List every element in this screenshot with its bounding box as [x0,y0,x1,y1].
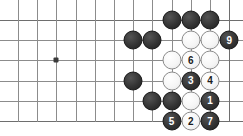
stone-black [143,91,162,110]
grid-line-vertical-6 [133,0,134,122]
grid-line-vertical-3 [76,0,77,122]
move-stone-6: 6 [181,51,200,70]
move-stone-1: 1 [201,91,220,110]
stone-white [162,71,181,90]
stone-black [162,11,181,30]
stone-move-number: 7 [207,116,213,126]
grid-line-vertical-0 [18,0,19,122]
move-stone-9: 9 [220,31,239,50]
stone-black [162,91,181,110]
stone-black [143,31,162,50]
hoshi-point [54,58,59,63]
move-stone-2: 2 [181,112,200,131]
stone-move-number: 3 [188,76,194,86]
move-stone-7: 7 [201,112,220,131]
stone-white [181,31,200,50]
grid-line-vertical-4 [95,0,96,122]
grid-line-vertical-1 [37,0,38,122]
stone-white [162,51,181,70]
grid-line-vertical-11 [229,0,230,122]
stone-black [124,71,143,90]
stone-black [124,31,143,50]
stone-black [181,11,200,30]
stone-move-number: 4 [207,76,213,86]
move-stone-3: 3 [181,71,200,90]
stone-white [201,51,220,70]
go-board-diagram: 96341527 [0,0,243,136]
stone-move-number: 9 [226,35,232,45]
move-stone-4: 4 [201,71,220,90]
stone-move-number: 2 [188,116,194,126]
move-stone-5: 5 [162,112,181,131]
stone-move-number: 1 [207,96,213,106]
stone-white [181,91,200,110]
stone-white [201,31,220,50]
stone-move-number: 6 [188,55,194,65]
grid-line-vertical-5 [114,0,115,122]
stone-move-number: 5 [169,116,175,126]
stone-black [201,11,220,30]
